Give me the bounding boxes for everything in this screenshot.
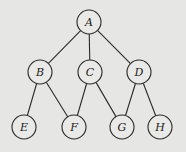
- node-label: B: [35, 66, 44, 79]
- node-d: D: [127, 60, 151, 84]
- edge-b-e: [27, 84, 36, 116]
- edge-c-g: [96, 82, 116, 116]
- node-c: C: [78, 60, 102, 84]
- edge-c-f: [77, 84, 86, 116]
- tree-diagram: ABCDEFGH: [0, 0, 186, 152]
- node-a: A: [77, 10, 101, 34]
- node-h: H: [148, 115, 172, 139]
- edge-d-h: [143, 83, 155, 116]
- node-label: H: [154, 121, 165, 134]
- node-label: G: [118, 121, 127, 134]
- edge-a-c: [89, 34, 90, 60]
- edge-a-d: [97, 30, 130, 63]
- node-label: E: [19, 121, 28, 134]
- edge-b-f: [46, 82, 67, 117]
- edge-a-b: [48, 31, 80, 64]
- edge-d-g: [126, 83, 136, 115]
- node-label: A: [84, 16, 93, 29]
- node-label: C: [86, 66, 95, 79]
- node-f: F: [62, 115, 86, 139]
- nodes-group: ABCDEFGH: [12, 10, 172, 139]
- node-b: B: [28, 60, 52, 84]
- node-g: G: [110, 115, 134, 139]
- node-label: D: [134, 66, 144, 79]
- node-label: F: [69, 121, 78, 134]
- node-e: E: [12, 115, 36, 139]
